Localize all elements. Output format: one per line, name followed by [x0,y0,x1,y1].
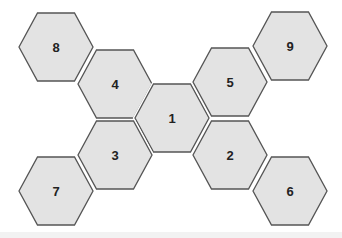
hexagon-6: 6 [253,157,327,225]
hexagon-3: 3 [78,121,152,189]
hexagon-2: 2 [193,121,267,189]
hexagon-7: 7 [19,157,93,225]
hexagon-label: 8 [52,40,59,55]
hexagon-label: 2 [226,148,233,163]
hexagon-label: 3 [111,148,118,163]
hexagon-diagram: 841593726 [0,0,342,238]
hexagon-8: 8 [19,13,93,81]
hexagon-label: 4 [111,77,119,92]
hexagon-5: 5 [193,48,267,116]
hexagon-label: 7 [52,184,59,199]
hexagon-label: 6 [286,184,293,199]
hexagon-9: 9 [253,12,327,80]
hexagon-label: 5 [226,75,233,90]
hexagon-label: 9 [286,39,293,54]
hexagon-label: 1 [168,111,175,126]
